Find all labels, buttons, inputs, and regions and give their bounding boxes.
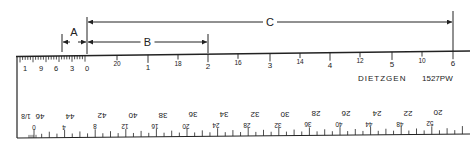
main-scale-label: 10	[418, 57, 426, 64]
bottom-scale-labels: 1/84644424038363432302826242220048121620…	[21, 108, 442, 131]
scale-label-one-eighth: 1/8	[21, 113, 31, 120]
main-scale-label: 6	[451, 59, 456, 68]
ruler-top-edge	[16, 51, 470, 57]
main-scale-label: 2	[206, 62, 211, 71]
ruler-bottom-edge	[17, 134, 470, 138]
main-scale-label: 12	[356, 57, 364, 64]
bottom-lower-label: 44	[365, 121, 373, 128]
bottom-upper-label: 44	[65, 112, 74, 121]
bottom-upper-label: 32	[250, 110, 259, 119]
dimension-a-label: A	[70, 26, 78, 38]
dimension-lines: ABC	[63, 16, 452, 48]
bottom-upper-label: 34	[219, 110, 228, 119]
bottom-lower-label: 48	[396, 121, 404, 128]
bottom-lower-label: 32	[274, 122, 282, 129]
bottom-upper-label: 36	[188, 110, 197, 119]
bottom-upper-label: 42	[97, 111, 106, 120]
extension-lines	[62, 11, 453, 54]
bottom-upper-label: 20	[433, 108, 442, 117]
model-label: 1527PW	[422, 74, 453, 83]
dimension-b-label: B	[144, 36, 151, 48]
ruler-diagram: ABC 19630201182163144125106 1/8464442403…	[0, 0, 473, 143]
bottom-lower-label: 24	[212, 122, 220, 129]
bottom-upper-label: 46	[35, 112, 44, 121]
top-scale-labels: 19630201182163144125106	[23, 57, 456, 73]
bottom-upper-label: 26	[341, 109, 350, 118]
bottom-upper-label: 28	[311, 109, 320, 118]
bottom-lower-label: 40	[335, 121, 343, 128]
main-scale-label: 1	[146, 63, 151, 72]
fine-scale-label: 3	[70, 64, 74, 73]
bottom-lower-label: 8	[93, 123, 97, 130]
bottom-lower-label: 28	[243, 122, 251, 129]
main-scale-label: 3	[268, 61, 273, 70]
bottom-lower-label: 16	[151, 123, 159, 130]
fine-scale-label: 6	[54, 64, 58, 73]
bottom-upper-label: 38	[158, 111, 167, 120]
main-scale-label: 14	[296, 58, 304, 65]
fine-scale-label: 0	[85, 64, 89, 73]
main-scale-label: 18	[174, 60, 182, 67]
main-scale-label: 16	[234, 59, 242, 66]
bottom-lower-label: 12	[121, 123, 129, 130]
fine-scale-label: 1	[23, 64, 27, 73]
bottom-lower-label: 4	[62, 124, 66, 131]
main-scale-label: 20	[113, 60, 121, 67]
brand-label: DIETZGEN	[358, 74, 406, 83]
bottom-lower-label: 52	[426, 120, 434, 127]
main-scale-label: 4	[328, 61, 333, 70]
main-scale-label: 5	[390, 60, 395, 69]
bottom-lower-label: 20	[182, 123, 190, 130]
fine-scale-label: 9	[39, 64, 43, 73]
bottom-upper-label: 22	[403, 109, 412, 118]
bottom-upper-label: 30	[280, 110, 289, 119]
bottom-upper-label: 24	[372, 109, 381, 118]
bottom-lower-label: 36	[304, 121, 312, 128]
bottom-upper-label: 40	[128, 111, 137, 120]
bottom-lower-label: 0	[32, 124, 36, 131]
dimension-c-label: C	[266, 16, 274, 28]
